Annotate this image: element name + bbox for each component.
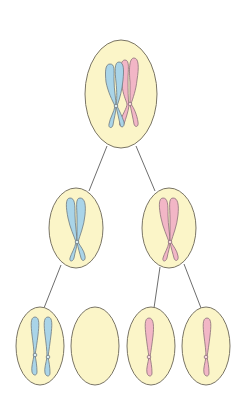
connector-left-to-gamete-1 [44,265,61,308]
connector-parent-to-right [136,146,155,191]
cell-gamete-4 [182,307,230,385]
cell-parent [85,40,157,148]
cell-gamete-1 [16,307,64,385]
connector-right-to-gamete-4 [184,264,201,308]
cell-gamete-2 [71,307,119,385]
meiosis-diagram [0,0,238,411]
cell-meiosis1-left [49,188,103,268]
cell-gamete-3 [127,307,175,385]
connector-parent-to-left [89,146,107,191]
cell-meiosis1-right [142,188,196,268]
connector-right-to-gamete-3 [154,267,160,308]
